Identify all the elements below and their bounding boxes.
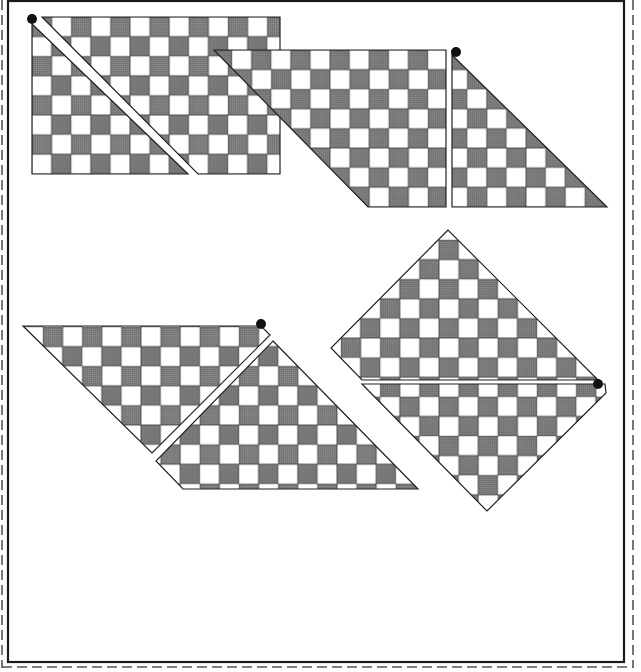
puzzle-diagram <box>0 0 641 672</box>
figures-layer <box>23 14 607 511</box>
piece-diamond-top <box>331 230 598 380</box>
pivot-dot-icon <box>593 379 603 389</box>
piece-triangle-right <box>452 55 607 207</box>
pivot-dot-icon <box>27 14 37 24</box>
pivot-dot-icon <box>256 319 266 329</box>
piece-diamond-bottom <box>362 384 606 511</box>
pivot-dot-icon <box>451 47 461 57</box>
figure-rectangle-split <box>27 14 280 174</box>
